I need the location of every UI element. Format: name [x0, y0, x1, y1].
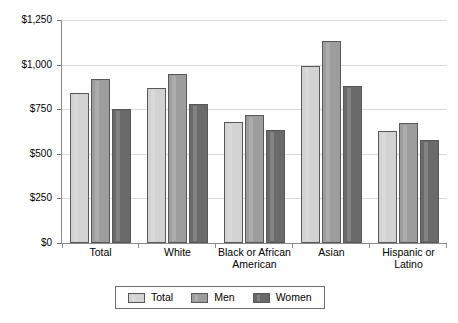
legend-swatch-icon: [191, 293, 208, 303]
legend-label: Men: [214, 292, 234, 303]
y-tick-label: $1,250: [0, 15, 56, 25]
legend-item[interactable]: Total: [128, 292, 173, 303]
legend-item[interactable]: Women: [253, 292, 312, 303]
bar-group: [370, 20, 447, 243]
y-tick-label: $250: [0, 193, 56, 203]
bar: [301, 66, 320, 244]
bar: [378, 131, 397, 243]
bar-group: [216, 20, 293, 243]
y-axis-labels: $1,250$1,000$750$500$250$0: [0, 0, 56, 323]
bar: [399, 123, 418, 243]
bar-group: [293, 20, 370, 243]
bar: [245, 115, 264, 243]
bar-group: [62, 20, 139, 243]
bar-chart: $1,250$1,000$750$500$250$0 TotalWhiteBla…: [0, 0, 458, 323]
category-label: White: [139, 246, 216, 270]
plot-area: [62, 20, 447, 243]
category-label: Hispanic or Latino: [370, 246, 447, 270]
bar: [168, 74, 187, 243]
bar-group: [139, 20, 216, 243]
legend-label: Total: [151, 292, 173, 303]
bar: [224, 122, 243, 243]
bar: [322, 41, 341, 243]
legend-label: Women: [276, 292, 312, 303]
category-label: Asian: [293, 246, 370, 270]
gridline: [62, 243, 447, 244]
category-label: Total: [62, 246, 139, 270]
y-tick-label: $500: [0, 149, 56, 159]
bar: [70, 93, 89, 243]
legend-swatch-icon: [253, 293, 270, 303]
bar: [266, 130, 285, 243]
bar: [189, 104, 208, 243]
y-tick-label: $0: [0, 238, 56, 248]
category-label: Black or African American: [216, 246, 293, 270]
y-tick-label: $750: [0, 104, 56, 114]
bar: [91, 79, 110, 243]
bar: [420, 140, 439, 243]
bar: [147, 88, 166, 243]
legend-swatch-icon: [128, 293, 145, 303]
bar: [112, 109, 131, 243]
y-tick-label: $1,000: [0, 60, 56, 70]
chart-legend: TotalMenWomen: [115, 286, 325, 309]
legend-item[interactable]: Men: [191, 292, 234, 303]
bar: [343, 86, 362, 243]
x-axis-category-labels: TotalWhiteBlack or African AmericanAsian…: [62, 246, 447, 270]
bar-groups: [62, 20, 447, 243]
